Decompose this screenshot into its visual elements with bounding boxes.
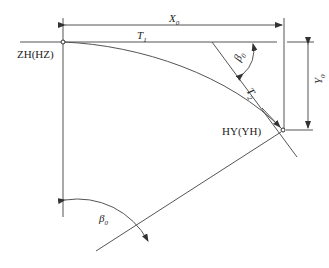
t2-label: T2	[242, 85, 260, 102]
zh-point	[61, 40, 65, 44]
hy-label: HY(YH)	[222, 125, 261, 138]
beta-bottom-label: β0	[98, 212, 108, 227]
transition-curve-diagram: ZH(HZ) HY(YH) X0 T1 T2 Y0 β0 β0	[0, 0, 329, 268]
hy-point	[281, 128, 285, 132]
zh-label: ZH(HZ)	[17, 48, 54, 61]
beta-top-label: β0	[231, 49, 249, 65]
radius-line	[96, 132, 281, 251]
t2-arrow	[262, 108, 280, 127]
y0-label: Y0	[312, 74, 327, 84]
transition-curve	[63, 42, 283, 130]
